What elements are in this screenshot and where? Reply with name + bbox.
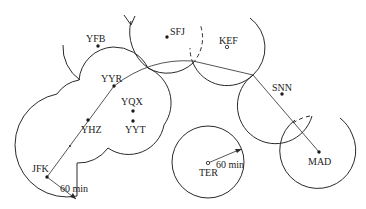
airport-snn: SNN [272,82,292,96]
airport-dot-icon [112,84,115,87]
airport-label: MAD [308,156,331,167]
coverage-arc-yfb [63,45,80,80]
airport-mad: MAD [308,150,331,167]
airport-label: TER [199,167,218,178]
airport-label: YHZ [81,124,102,135]
airport-dot-icon [131,109,134,112]
airport-jfk: JFK [32,163,49,179]
diagram-canvas: 60 min 60 min JFK YHZ YYT YQX YYR YFB SF… [0,0,366,209]
airport-label: SFJ [170,26,185,37]
airport-yyt: YYT [125,119,146,135]
coverage-arc-sfj-left [130,21,148,68]
airport-dot-icon [45,175,48,178]
radius-label-ter: 60 min [216,159,244,170]
airport-dot-icon [131,119,134,122]
airport-dot-icon [317,150,320,153]
coverage-overlap-snn-mad [293,116,312,123]
coverage-circle-kef [193,18,265,86]
airport-label: YQX [121,96,143,107]
route-marker [69,145,71,147]
airport-kef: KEF [219,35,238,49]
airport-yqx: YQX [121,96,143,113]
airport-yhz: YHZ [81,118,102,135]
airport-label: KEF [219,35,238,46]
airport-dot-icon [165,35,168,38]
airport-label: SNN [272,82,292,93]
airport-yyr: YYR [101,73,122,88]
airport-label: YYR [101,73,122,84]
airport-sfj: SFJ [165,26,185,39]
coverage-circle-sfj-dashed [193,24,203,63]
coverage-arc-sfj-fork [124,15,135,25]
airport-label: YFB [86,33,106,44]
airport-label: JFK [32,163,49,174]
airport-label: YYT [125,124,146,135]
coverage-circle-mad [280,118,356,188]
coverage-boundary-north-america [15,47,171,197]
arrowhead-icon [235,149,242,153]
radius-label-jfk: 60 min [60,183,88,194]
airport-dot-icon [86,118,89,121]
airport-dot-icon [96,44,99,47]
airport-yfb: YFB [86,33,106,48]
airport-open-dot-icon [206,161,209,164]
etops-diagram: 60 min 60 min JFK YHZ YYT YQX YYR YFB SF… [0,0,366,209]
